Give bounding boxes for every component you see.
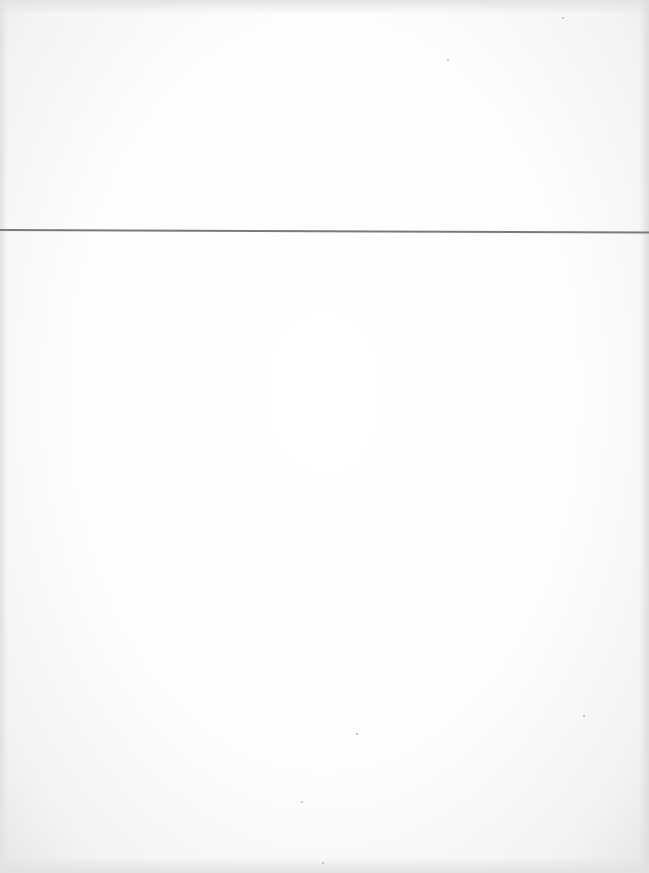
paper-speck [583,715,585,717]
paper-speck [322,862,324,864]
scan-shadow-top [0,0,649,14]
paper-speck [447,59,449,61]
paper-speck [356,733,358,735]
scan-shadow-right [639,0,649,873]
horizontal-rule [0,229,649,233]
scan-shadow-bottom [0,857,649,873]
scanned-page [0,0,649,873]
scan-shadow-left [0,0,8,873]
paper-speck [301,801,303,803]
paper-speck [562,17,564,19]
